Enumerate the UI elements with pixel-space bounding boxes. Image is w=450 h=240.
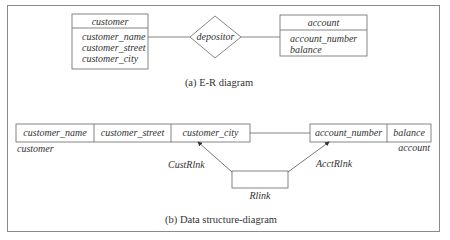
attr-account-number: account_number <box>290 33 357 44</box>
record-rlink-label: Rlink <box>248 190 271 201</box>
record-account: account_number balance account <box>310 124 431 153</box>
field-customer-city: customer_city <box>182 127 239 138</box>
record-rlink: Rlink <box>232 171 288 201</box>
attr-balance: balance <box>290 44 322 55</box>
field-customer-street: customer_street <box>101 127 165 138</box>
relationship-depositor: depositor <box>190 16 241 58</box>
entity-account-title: account <box>308 17 340 28</box>
attr-customer-city: customer_city <box>82 53 139 64</box>
record-customer-label: customer <box>17 143 54 154</box>
record-customer: customer_name customer_street customer_c… <box>16 124 250 154</box>
field-customer-name: customer_name <box>23 127 87 138</box>
field-balance: balance <box>393 127 425 138</box>
caption-data-structure-diagram: (b) Data structure-diagram <box>165 214 277 226</box>
entity-customer-title: customer <box>92 16 129 27</box>
label-custrlnk: CustRlnk <box>168 159 205 170</box>
record-account-label: account <box>398 142 430 153</box>
label-acctrlnk: AcctRlnk <box>315 158 353 169</box>
attr-customer-street: customer_street <box>82 42 146 53</box>
relationship-label: depositor <box>197 31 235 42</box>
attr-customer-name: customer_name <box>82 31 146 42</box>
entity-customer: customer customer_name customer_street c… <box>72 14 148 69</box>
entity-account: account account_number balance <box>280 15 367 56</box>
caption-er-diagram: (a) E-R diagram <box>185 77 253 89</box>
field-account-number: account_number <box>315 127 382 138</box>
diagram-canvas: customer customer_name customer_street c… <box>0 0 450 240</box>
